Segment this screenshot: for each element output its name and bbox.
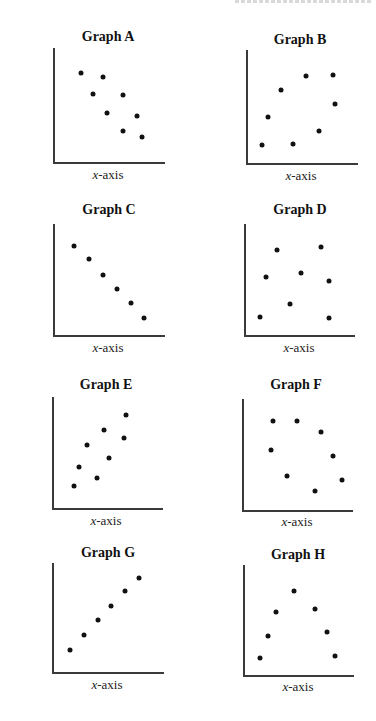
data-point <box>304 74 309 79</box>
data-point <box>319 245 324 250</box>
data-point <box>333 654 338 659</box>
data-point <box>101 273 106 278</box>
graph-title: Graph F <box>270 377 322 393</box>
data-point <box>331 73 336 78</box>
data-point <box>295 419 300 424</box>
data-point <box>79 71 84 76</box>
data-point <box>101 75 106 80</box>
data-point <box>142 316 147 321</box>
data-point <box>317 129 322 134</box>
graph-title: Graph D <box>273 202 326 218</box>
data-point <box>102 428 107 433</box>
data-point <box>122 436 127 441</box>
data-point <box>325 630 330 635</box>
data-point <box>274 610 279 615</box>
data-point <box>87 257 92 262</box>
data-point <box>85 443 90 448</box>
x-axis-label: x-axis <box>282 679 313 695</box>
data-point <box>266 634 271 639</box>
data-point <box>292 589 297 594</box>
x-axis-line <box>243 675 354 677</box>
graph-title: Graph E <box>80 377 133 393</box>
data-point <box>258 656 263 661</box>
graph-title: Graph G <box>81 545 135 561</box>
data-point <box>264 275 269 280</box>
data-point <box>72 484 77 489</box>
x-axis-label: x-axis <box>92 167 123 183</box>
x-axis-label: x-axis <box>92 340 123 356</box>
y-axis-line <box>52 563 54 673</box>
data-point <box>285 474 290 479</box>
data-point <box>269 448 274 453</box>
y-axis-line <box>52 397 54 509</box>
data-point <box>140 135 145 140</box>
data-point <box>271 419 276 424</box>
x-axis-line <box>53 162 165 164</box>
data-point <box>109 604 114 609</box>
y-axis-line <box>243 565 245 676</box>
x-axis-line <box>53 335 165 337</box>
x-axis-line <box>242 510 353 512</box>
data-point <box>331 454 336 459</box>
graph-title: Graph B <box>274 32 327 48</box>
data-point <box>266 115 271 120</box>
y-axis-line <box>244 224 246 336</box>
x-axis-line <box>244 335 355 337</box>
x-axis-label: x-axis <box>283 340 314 356</box>
data-point <box>327 316 332 321</box>
data-point <box>340 478 345 483</box>
data-point <box>121 93 126 98</box>
data-point <box>95 476 100 481</box>
x-axis-label: x-axis <box>91 677 122 693</box>
x-axis-line <box>52 672 164 674</box>
x-axis-label: x-axis <box>285 168 316 184</box>
data-point <box>77 465 82 470</box>
data-point <box>82 633 87 638</box>
data-point <box>96 618 101 623</box>
y-axis-line <box>246 50 248 164</box>
data-point <box>313 607 318 612</box>
y-axis-line <box>242 399 244 511</box>
data-point <box>258 315 263 320</box>
y-axis-line <box>53 224 55 336</box>
data-point <box>105 111 110 116</box>
data-point <box>313 489 318 494</box>
data-point <box>91 92 96 97</box>
y-axis-line <box>53 48 55 163</box>
graph-title: Graph H <box>271 547 325 563</box>
data-point <box>107 456 112 461</box>
graph-title: Graph C <box>82 202 135 218</box>
data-point <box>137 576 142 581</box>
data-point <box>288 302 293 307</box>
data-point <box>291 142 296 147</box>
data-point <box>260 143 265 148</box>
data-point <box>68 648 73 653</box>
data-point <box>299 271 304 276</box>
x-axis-line <box>246 163 358 165</box>
data-point <box>333 102 338 107</box>
x-axis-label: x-axis <box>281 514 312 530</box>
data-point <box>115 287 120 292</box>
data-point <box>319 430 324 435</box>
data-point <box>275 248 280 253</box>
data-point <box>72 244 77 249</box>
data-point <box>124 413 129 418</box>
data-point <box>121 129 126 134</box>
x-axis-line <box>52 508 163 510</box>
page-header-cutoff <box>235 0 373 3</box>
data-point <box>129 301 134 306</box>
data-point <box>135 114 140 119</box>
data-point <box>123 589 128 594</box>
data-point <box>279 88 284 93</box>
graph-title: Graph A <box>82 29 135 45</box>
x-axis-label: x-axis <box>90 513 121 529</box>
data-point <box>327 279 332 284</box>
